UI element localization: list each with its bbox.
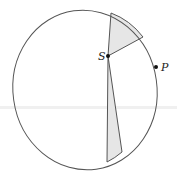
lower-sector <box>107 56 122 162</box>
label-p: P <box>160 61 169 74</box>
label-s: S <box>98 50 106 63</box>
kepler-diagram: S P <box>0 0 177 182</box>
focus-point-s <box>106 54 110 58</box>
orbit-point-p <box>154 65 158 69</box>
upper-sector <box>108 13 143 56</box>
orbit-ellipse <box>3 1 168 179</box>
